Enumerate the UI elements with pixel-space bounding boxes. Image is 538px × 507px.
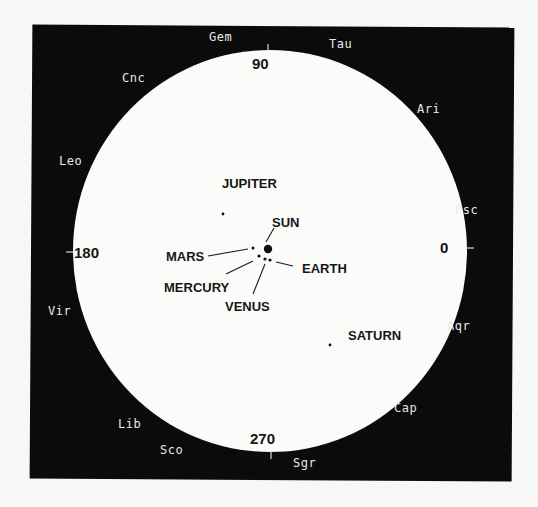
constellation-label-psc: Psc [455, 204, 478, 216]
leader-line-earth [276, 262, 293, 266]
mars-label: MARS [166, 250, 204, 263]
leader-line-sun [266, 228, 274, 242]
leader-line-mercury [226, 261, 253, 274]
constellation-label-vir: Vir [48, 305, 71, 317]
degree-label-90: 90 [252, 56, 269, 71]
jupiter-label: JUPITER [222, 177, 277, 190]
degree-label-270: 270 [250, 431, 275, 446]
constellation-label-tau: Tau [329, 38, 352, 50]
degree-label-0: 0 [440, 240, 448, 255]
degree-label-180: 180 [74, 245, 99, 260]
constellation-label-cnc: Cnc [122, 72, 145, 84]
jupiter-marker-icon [222, 213, 225, 216]
saturn-label: SATURN [348, 329, 401, 342]
constellation-label-sco: Sco [160, 444, 183, 456]
constellation-label-sgr: Sgr [293, 457, 316, 469]
venus-marker-icon [263, 257, 266, 260]
constellation-label-cap: Cap [394, 402, 417, 414]
sun-label: SUN [272, 216, 299, 229]
mercury-label: MERCURY [164, 281, 229, 294]
mars-marker-icon [252, 247, 255, 250]
earth-marker-icon [268, 258, 271, 261]
constellation-label-leo: Leo [59, 155, 82, 167]
constellation-label-lib: Lib [118, 418, 141, 430]
constellation-label-ari: Ari [417, 103, 440, 115]
earth-label: EARTH [302, 262, 347, 275]
leader-line-mars [208, 249, 248, 256]
saturn-marker-icon [329, 344, 332, 347]
sun-marker-icon [264, 245, 272, 253]
heliocentric-diagram: 901800270GemTauCncAriLeoPscVirAqrCapLibS… [0, 0, 538, 507]
constellation-label-aqr: Aqr [447, 320, 470, 332]
leader-line-venus [253, 264, 265, 294]
constellation-label-gem: Gem [209, 31, 232, 43]
venus-label: VENUS [225, 300, 270, 313]
mercury-marker-icon [257, 254, 260, 257]
